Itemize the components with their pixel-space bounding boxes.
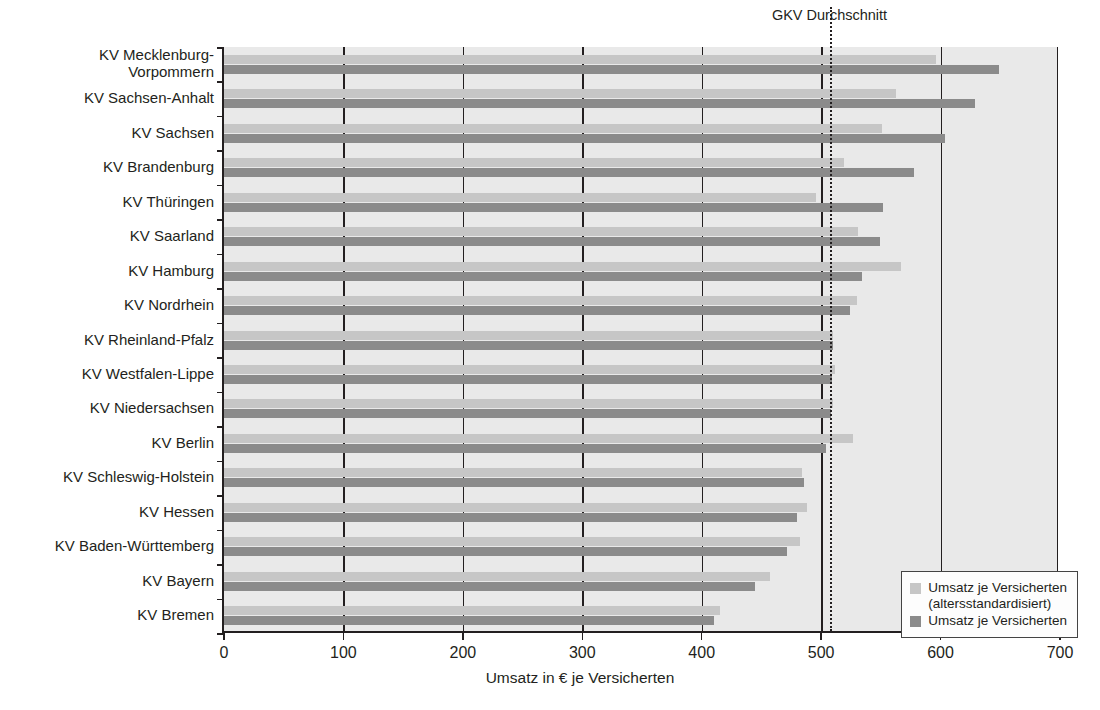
legend-item-umsatz: Umsatz je Versicherten	[910, 613, 1067, 629]
x-tick-label-200: 200	[449, 644, 476, 662]
y-tick	[217, 599, 224, 601]
y-tick	[217, 461, 224, 463]
chart-container: KV Mecklenburg- VorpommernKV Sachsen-Anh…	[0, 0, 1100, 710]
chart-legend: Umsatz je Versicherten (altersstandardis…	[901, 571, 1078, 638]
y-axis-label: KV Saarland	[0, 227, 214, 244]
bar-altersstandardisiert	[224, 434, 853, 443]
y-axis-label: KV Sachsen-Anhalt	[0, 89, 214, 106]
y-tick	[217, 254, 224, 256]
bar-altersstandardisiert	[224, 124, 882, 133]
x-axis-title: Umsatz in € je Versicherten	[0, 669, 1100, 687]
x-tick-300	[582, 633, 584, 640]
bar-altersstandardisiert	[224, 365, 835, 374]
x-tick-label-100: 100	[330, 644, 357, 662]
bar-altersstandardisiert	[224, 158, 844, 167]
bar-altersstandardisiert	[224, 262, 901, 271]
legend-label-0: Umsatz je Versicherten (altersstandardis…	[928, 580, 1067, 612]
bar-altersstandardisiert	[224, 399, 833, 408]
y-tick	[217, 47, 224, 49]
x-tick-400	[701, 633, 703, 640]
bar-row	[224, 227, 1057, 246]
x-tick-label-400: 400	[688, 644, 715, 662]
bar-altersstandardisiert	[224, 89, 896, 98]
x-tick-500	[820, 633, 822, 640]
y-axis-label: KV Berlin	[0, 434, 214, 451]
bar-umsatz	[224, 547, 787, 556]
y-tick	[217, 564, 224, 566]
y-tick	[217, 81, 224, 83]
bar-row	[224, 262, 1057, 281]
legend-swatch-light	[910, 583, 921, 594]
bar-row	[224, 55, 1057, 74]
y-axis-label: KV Sachsen	[0, 124, 214, 141]
x-tick-label-700: 700	[1047, 644, 1074, 662]
legend-label-1: Umsatz je Versicherten	[928, 613, 1067, 629]
y-axis-label: KV Thüringen	[0, 193, 214, 210]
bar-row	[224, 365, 1057, 384]
x-tick-label-0: 0	[220, 644, 229, 662]
bar-row	[224, 331, 1057, 350]
y-axis-label: KV Bayern	[0, 572, 214, 589]
bar-row	[224, 193, 1057, 212]
y-tick	[217, 323, 224, 325]
y-axis-label: KV Mecklenburg- Vorpommern	[0, 46, 214, 80]
y-axis-label: KV Schleswig-Holstein	[0, 468, 214, 485]
bar-umsatz	[224, 134, 945, 143]
bar-row	[224, 468, 1057, 487]
y-tick	[217, 530, 224, 532]
y-axis-label: KV Westfalen-Lippe	[0, 365, 214, 382]
bar-row	[224, 296, 1057, 315]
bar-umsatz	[224, 99, 975, 108]
y-axis-label: KV Brandenburg	[0, 158, 214, 175]
y-axis-label: KV Hamburg	[0, 262, 214, 279]
y-tick	[217, 150, 224, 152]
y-tick	[217, 426, 224, 428]
bar-altersstandardisiert	[224, 503, 807, 512]
gkv-average-line	[830, 7, 832, 631]
y-axis-label: KV Nordrhein	[0, 296, 214, 313]
bar-umsatz	[224, 306, 850, 315]
y-tick	[217, 357, 224, 359]
x-tick-100	[343, 633, 345, 640]
y-axis-label: KV Bremen	[0, 606, 214, 623]
bar-altersstandardisiert	[224, 193, 816, 202]
bar-altersstandardisiert	[224, 468, 802, 477]
bar-altersstandardisiert	[224, 296, 857, 305]
bar-altersstandardisiert	[224, 606, 720, 615]
y-tick	[217, 219, 224, 221]
bar-altersstandardisiert	[224, 227, 858, 236]
y-tick	[217, 288, 224, 290]
bar-umsatz	[224, 616, 714, 625]
bar-umsatz	[224, 65, 999, 74]
bar-umsatz	[224, 513, 797, 522]
bar-row	[224, 158, 1057, 177]
bar-umsatz	[224, 341, 833, 350]
y-tick	[217, 495, 224, 497]
y-axis-label: KV Baden-Württemberg	[0, 537, 214, 554]
x-tick-label-500: 500	[808, 644, 835, 662]
y-axis-label: KV Rheinland-Pfalz	[0, 331, 214, 348]
gkv-average-label: GKV Durchschnitt	[772, 7, 887, 23]
bar-umsatz	[224, 203, 883, 212]
legend-item-altersstandardisiert: Umsatz je Versicherten (altersstandardis…	[910, 580, 1067, 612]
x-tick-label-600: 600	[927, 644, 954, 662]
y-tick	[217, 116, 224, 118]
bar-altersstandardisiert	[224, 331, 833, 340]
bar-umsatz	[224, 409, 831, 418]
bar-umsatz	[224, 478, 804, 487]
bar-row	[224, 503, 1057, 522]
y-tick	[217, 185, 224, 187]
y-axis-label: KV Niedersachsen	[0, 399, 214, 416]
legend-swatch-dark	[910, 616, 921, 627]
bar-row	[224, 434, 1057, 453]
bar-umsatz	[224, 582, 755, 591]
bar-umsatz	[224, 444, 826, 453]
bar-umsatz	[224, 375, 832, 384]
y-tick	[217, 392, 224, 394]
bar-row	[224, 89, 1057, 108]
x-tick-label-300: 300	[569, 644, 596, 662]
x-tick-200	[462, 633, 464, 640]
bar-row	[224, 537, 1057, 556]
bar-altersstandardisiert	[224, 537, 800, 546]
bar-umsatz	[224, 237, 880, 246]
